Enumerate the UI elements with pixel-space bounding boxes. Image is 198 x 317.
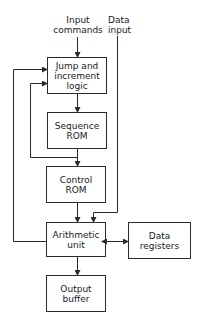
sequence-rom-label: Sequence ROM — [48, 113, 106, 148]
data-registers-label: Data registers — [129, 223, 190, 258]
output-buffer-label: Output buffer — [47, 276, 105, 311]
block-diagram — [0, 0, 198, 317]
control-rom-label: Control ROM — [47, 167, 105, 202]
input-commands-label: Input commands — [53, 15, 103, 35]
arithmetic-unit-label: Arithmetic unit — [47, 223, 105, 256]
data-input-label: Data input — [108, 15, 142, 35]
jump-logic-label: Jump and increment logic — [48, 58, 106, 93]
